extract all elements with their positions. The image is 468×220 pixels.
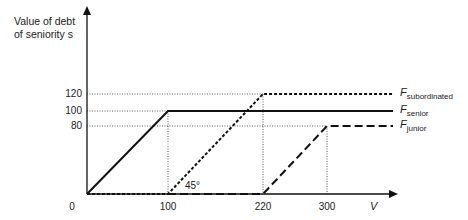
legend-junior: Fjunior — [400, 118, 426, 133]
x-tick-300: 300 — [312, 201, 342, 212]
y-tick-80: 80 — [52, 120, 82, 131]
y-label-line-2: of seniority s — [14, 28, 75, 41]
y-label-line-1: Value of debt — [14, 15, 75, 28]
x-tick-100: 100 — [153, 201, 183, 212]
x-tick-0: 0 — [57, 201, 87, 212]
axes — [87, 12, 392, 194]
y-axis-label: Value of debt of seniority s — [14, 15, 75, 41]
series-junior — [168, 126, 393, 194]
legend-senior: Fsenior — [400, 103, 429, 118]
series-subordinated — [87, 94, 393, 194]
angle-annotation: 45° — [185, 180, 200, 191]
x-axis-label: V — [370, 200, 377, 212]
x-axis-arrow-icon — [389, 190, 398, 198]
y-tick-100: 100 — [52, 105, 82, 116]
legend-subordinated: Fsubordinated — [400, 86, 453, 101]
y-tick-120: 120 — [52, 88, 82, 99]
series-senior — [87, 111, 393, 194]
y-axis-arrow-icon — [83, 6, 91, 15]
x-tick-220: 220 — [248, 201, 278, 212]
reference-lines — [87, 94, 327, 194]
